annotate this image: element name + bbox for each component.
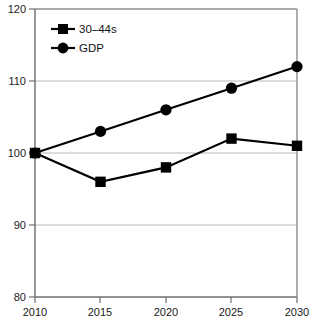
x-axis-labels: 2010 2015 2020 2025 2030 xyxy=(23,306,309,318)
square-marker-icon xyxy=(292,141,302,151)
circle-marker-icon xyxy=(291,61,302,72)
x-axis-label-2025: 2025 xyxy=(219,306,243,318)
x-axis-label-2020: 2020 xyxy=(154,306,178,318)
legend-entry-30-44s: 30–44s xyxy=(51,23,117,35)
x-axis-label-2015: 2015 xyxy=(88,306,112,318)
y-axis-label-120: 120 xyxy=(8,3,26,15)
chart-canvas: 120 110 100 90 80 2010 2015 2020 2025 20… xyxy=(0,0,316,321)
circle-marker-icon xyxy=(95,126,106,137)
circle-marker-icon xyxy=(160,104,171,115)
y-axis-label-100: 100 xyxy=(8,147,26,159)
square-marker-icon xyxy=(161,162,171,172)
y-axis-label-80: 80 xyxy=(14,291,26,303)
legend-label-30-44s: 30–44s xyxy=(79,23,117,35)
square-marker-icon xyxy=(58,24,68,34)
circle-marker-icon xyxy=(29,147,40,158)
square-marker-icon xyxy=(95,177,105,187)
line-chart: 120 110 100 90 80 2010 2015 2020 2025 20… xyxy=(0,0,316,321)
x-axis-label-2030: 2030 xyxy=(285,306,309,318)
square-marker-icon xyxy=(226,133,236,143)
x-axis-label-2010: 2010 xyxy=(23,306,47,318)
x-tick-marks xyxy=(35,297,297,303)
y-axis-label-110: 110 xyxy=(8,75,26,87)
circle-marker-icon xyxy=(58,43,69,54)
circle-marker-icon xyxy=(226,83,237,94)
y-axis-labels: 120 110 100 90 80 xyxy=(8,3,26,303)
y-axis-label-90: 90 xyxy=(14,219,26,231)
legend-label-gdp: GDP xyxy=(79,42,104,54)
